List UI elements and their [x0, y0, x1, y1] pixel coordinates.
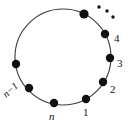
label-point-2: 2 [110, 84, 116, 95]
diagram-canvas [0, 0, 133, 128]
label-point-1: 1 [83, 107, 89, 118]
label-point-3: 3 [117, 58, 123, 69]
point-left [12, 60, 20, 68]
point-n [50, 99, 58, 107]
ellipsis-dot-2 [105, 9, 108, 12]
point-3 [106, 54, 114, 62]
ellipsis-dot-1 [97, 5, 100, 8]
label-point-n: n [49, 111, 55, 122]
point-4 [101, 30, 109, 38]
ellipsis-dot-3 [111, 15, 114, 18]
point-next [79, 9, 88, 18]
circle-diagram: 1 2 3 4 n n−1 [0, 0, 133, 128]
point-n-minus-1 [25, 84, 33, 92]
point-1 [82, 95, 90, 103]
ellipsis-dots [97, 5, 114, 18]
label-point-4: 4 [114, 33, 120, 44]
point-2 [99, 78, 107, 86]
